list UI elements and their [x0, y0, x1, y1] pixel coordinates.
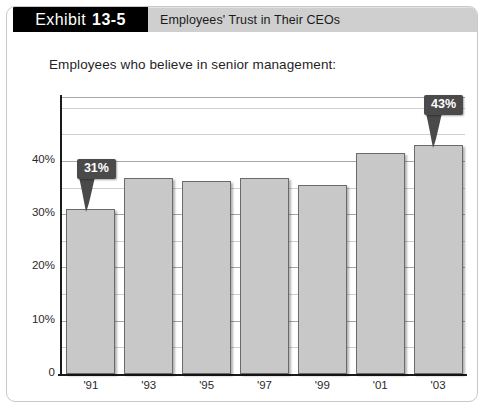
bar-99 [298, 185, 347, 374]
callout-label: 43% [424, 95, 463, 115]
bar-97 [240, 178, 289, 374]
y-tick-label: 0 [11, 366, 55, 378]
exhibit-panel: Exhibit 13-5 Employees' Trust in Their C… [6, 6, 478, 402]
y-tick-label: 30% [11, 206, 55, 218]
bar-91 [66, 209, 115, 374]
y-tick-label: 40% [11, 153, 55, 165]
x-tick-label: '95 [182, 379, 231, 391]
bar-chart: 010%20%30%40% '91'93'95'97'99'01'0331%43… [7, 7, 478, 402]
y-tick-label: 20% [11, 259, 55, 271]
x-tick-label: '99 [298, 379, 347, 391]
gridline-minor [60, 108, 465, 109]
x-tick-label: '91 [66, 379, 115, 391]
x-axis-line [58, 374, 467, 376]
x-tick-label: '97 [240, 379, 289, 391]
bar-95 [182, 181, 231, 374]
y-axis-labels: 010%20%30%40% [7, 7, 55, 402]
gridline-top [60, 97, 465, 98]
gridline-minor [60, 134, 465, 135]
bar-01 [356, 153, 405, 374]
x-tick-label: '01 [356, 379, 405, 391]
bar-93 [124, 178, 173, 374]
bar-03 [414, 145, 463, 374]
y-axis-line [60, 95, 62, 376]
callout-label: 31% [77, 159, 116, 179]
y-tick-label: 10% [11, 313, 55, 325]
x-tick-label: '03 [414, 379, 463, 391]
x-tick-label: '93 [124, 379, 173, 391]
